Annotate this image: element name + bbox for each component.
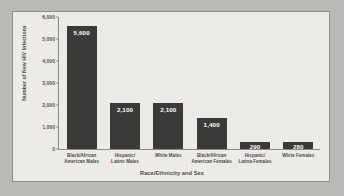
plot-area: 6,0005,0004,0003,0002,0001,0000 5,6002,1… (58, 17, 318, 149)
y-axis-line (58, 17, 59, 149)
figure-background: Number of New HIV Infections Race/Ethnic… (0, 0, 344, 196)
y-tick-mark (56, 149, 58, 150)
x-tick-label-line: Latino Males (99, 159, 150, 165)
x-tick-label-line: Latina Females (229, 159, 280, 165)
bar[interactable]: 2,100 (110, 103, 140, 149)
bar[interactable]: 290 (240, 142, 270, 149)
bar[interactable]: 280 (283, 142, 313, 149)
y-tick-mark (56, 39, 58, 40)
bar[interactable]: 1,400 (197, 118, 227, 149)
bar-value-label: 2,100 (153, 106, 183, 113)
bar[interactable]: 2,100 (153, 103, 183, 149)
bar-value-label: 290 (240, 142, 270, 149)
x-tick-label-line: White Females (273, 153, 324, 159)
x-axis-line (58, 149, 320, 150)
x-tick-label: White Females (273, 153, 324, 159)
chart-panel: Number of New HIV Infections Race/Ethnic… (12, 11, 330, 182)
y-tick-mark (56, 105, 58, 106)
bar-value-label: 280 (283, 142, 313, 149)
y-tick-mark (56, 17, 58, 18)
y-axis-title: Number of New HIV Infections (21, 8, 27, 118)
bar-value-label: 5,600 (67, 29, 97, 36)
bar[interactable]: 5,600 (67, 26, 97, 149)
x-axis-title: Race/Ethnicity and Sex (13, 170, 331, 176)
bar-value-label: 1,400 (197, 121, 227, 128)
y-tick-mark (56, 127, 58, 128)
y-tick-mark (56, 61, 58, 62)
y-tick-mark (56, 83, 58, 84)
bar-value-label: 2,100 (110, 106, 140, 113)
